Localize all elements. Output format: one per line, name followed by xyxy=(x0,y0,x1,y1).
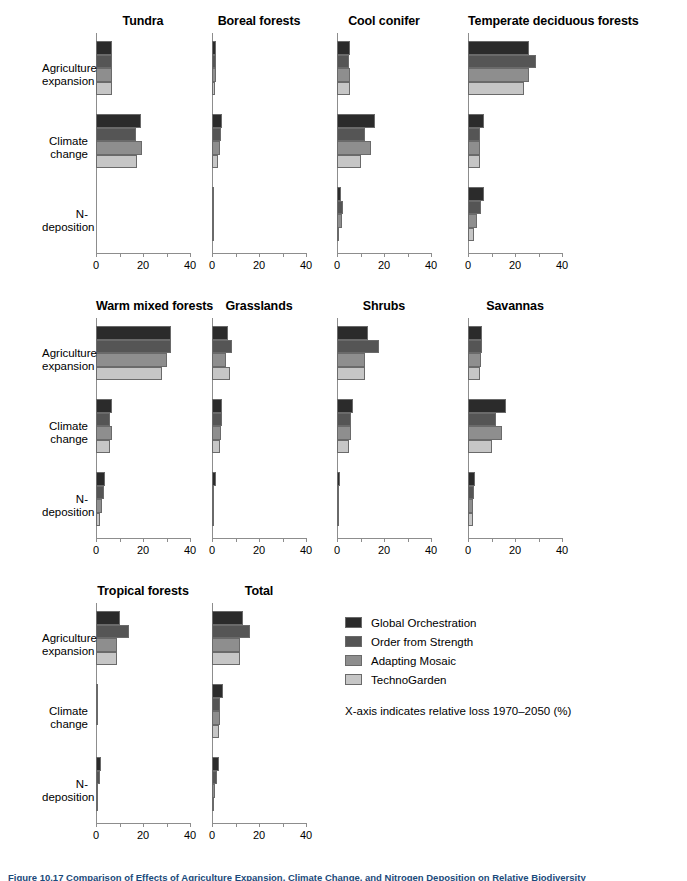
x-axis-tick xyxy=(562,538,563,542)
x-axis-tick xyxy=(361,538,362,542)
bar xyxy=(96,784,98,798)
bar xyxy=(337,155,361,169)
x-axis-tick xyxy=(120,823,121,827)
x-axis-tick-label: 0 xyxy=(197,829,227,841)
bar xyxy=(337,472,340,486)
bar xyxy=(212,784,215,798)
bar xyxy=(337,114,375,128)
bar xyxy=(337,141,371,155)
bar xyxy=(96,114,141,128)
bar xyxy=(468,141,480,155)
panel-savannas: Savannas02040 xyxy=(418,299,572,569)
x-axis-tick xyxy=(283,823,284,827)
bar xyxy=(212,757,219,771)
legend-swatch xyxy=(345,617,362,628)
bar xyxy=(337,128,365,142)
bar xyxy=(212,214,214,228)
bar xyxy=(212,68,216,82)
x-axis-tick xyxy=(384,253,385,257)
category-label: Agriculture expansion xyxy=(42,632,88,658)
bar xyxy=(96,399,112,413)
bar xyxy=(337,486,339,500)
x-axis-tick-label: 0 xyxy=(322,544,352,556)
x-axis-tick xyxy=(120,253,121,257)
x-axis-tick xyxy=(361,253,362,257)
x-axis-tick xyxy=(259,253,260,257)
bar xyxy=(468,128,480,142)
panel-title: Savannas xyxy=(468,299,562,313)
x-axis-tick xyxy=(468,253,469,257)
figure-caption: Figure 10.17 Comparison of Effects of Ag… xyxy=(8,872,680,881)
x-axis-tick-label: 0 xyxy=(81,259,111,271)
bar xyxy=(468,367,480,381)
x-axis-tick-label: 0 xyxy=(322,259,352,271)
x-axis-tick-label: 20 xyxy=(244,544,274,556)
bar xyxy=(212,440,220,454)
bar xyxy=(96,684,98,698)
bar xyxy=(468,472,475,486)
bar xyxy=(337,41,350,55)
bar xyxy=(96,711,98,725)
panel-title: Cool conifer xyxy=(337,14,431,28)
legend-label: Global Orchestration xyxy=(371,617,476,629)
x-axis-tick xyxy=(306,823,307,827)
bar xyxy=(212,41,216,55)
bar xyxy=(96,141,142,155)
panel-temperate-deciduous-forests: Temperate deciduous forests02040 xyxy=(418,14,572,284)
x-axis-tick xyxy=(236,538,237,542)
x-axis-tick xyxy=(408,253,409,257)
bar xyxy=(96,413,110,427)
x-axis-tick xyxy=(492,538,493,542)
x-axis-tick xyxy=(236,253,237,257)
x-axis-tick-label: 0 xyxy=(81,544,111,556)
bar xyxy=(96,82,112,96)
bar xyxy=(212,513,214,527)
bar xyxy=(337,440,349,454)
bar xyxy=(212,486,214,500)
x-axis-tick xyxy=(96,823,97,827)
plot-area: 02040 xyxy=(212,603,306,823)
bar xyxy=(96,771,100,785)
x-axis-tick xyxy=(212,823,213,827)
x-axis-tick-label: 20 xyxy=(128,544,158,556)
panel-total: Total02040 xyxy=(162,584,316,854)
bar xyxy=(468,114,484,128)
category-label: N-deposition xyxy=(42,778,88,804)
bar xyxy=(96,440,110,454)
bar xyxy=(212,141,220,155)
legend: Global OrchestrationOrder from StrengthA… xyxy=(345,613,476,689)
bar xyxy=(212,698,220,712)
category-label: Climate change xyxy=(42,420,88,446)
x-axis-tick xyxy=(212,253,213,257)
bar xyxy=(212,228,214,242)
figure-container: Tundra02040Agriculture expansionClimate … xyxy=(0,0,687,881)
category-label: N-deposition xyxy=(42,493,88,519)
x-axis-tick-label: 0 xyxy=(453,259,483,271)
bar xyxy=(96,652,117,666)
x-axis-tick xyxy=(539,538,540,542)
legend-item: Order from Strength xyxy=(345,632,476,651)
legend-label: Order from Strength xyxy=(371,636,473,648)
bar xyxy=(212,684,223,698)
plot-area: 02040 xyxy=(337,318,431,538)
bar xyxy=(468,214,477,228)
x-axis-tick xyxy=(468,538,469,542)
bar xyxy=(212,340,232,354)
bar xyxy=(212,725,219,739)
bar xyxy=(468,68,529,82)
x-axis-tick xyxy=(283,253,284,257)
x-axis-tick xyxy=(384,538,385,542)
x-axis-tick-label: 20 xyxy=(369,544,399,556)
legend-item: Global Orchestration xyxy=(345,613,476,632)
bar xyxy=(468,82,524,96)
x-axis-tick xyxy=(96,538,97,542)
bar xyxy=(96,55,112,69)
bar xyxy=(212,638,240,652)
bar xyxy=(468,353,481,367)
category-label: Climate change xyxy=(42,705,88,731)
legend-swatch xyxy=(345,636,362,647)
x-axis-tick-label: 40 xyxy=(291,829,321,841)
plot-area: 02040 xyxy=(468,318,562,538)
bar xyxy=(337,228,339,242)
bar xyxy=(96,155,137,169)
